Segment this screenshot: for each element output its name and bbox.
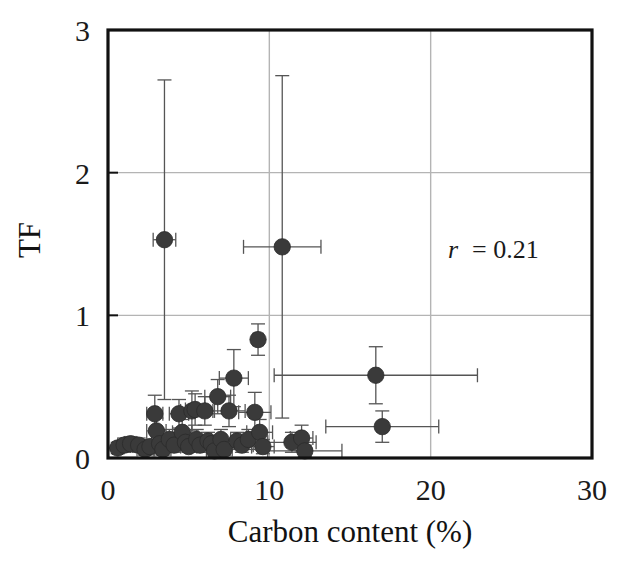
data-point bbox=[255, 438, 271, 454]
data-point bbox=[156, 232, 172, 248]
correlation-symbol: r bbox=[448, 235, 459, 264]
data-point bbox=[250, 331, 266, 347]
correlation-value: = 0.21 bbox=[472, 235, 539, 264]
y-tick-label: 3 bbox=[75, 14, 90, 47]
data-point bbox=[368, 367, 384, 383]
x-tick-label: 20 bbox=[416, 473, 446, 506]
x-tick-label: 30 bbox=[577, 473, 607, 506]
x-axis-title: Carbon content (%) bbox=[228, 514, 472, 549]
scatter-plot-figure: 01020300123 Carbon content (%) TF r = 0.… bbox=[0, 0, 627, 566]
chart-background bbox=[0, 0, 627, 566]
y-tick-label: 0 bbox=[75, 442, 90, 475]
chart-canvas: 01020300123 Carbon content (%) TF r = 0.… bbox=[0, 0, 627, 566]
data-point bbox=[147, 406, 163, 422]
data-point bbox=[210, 388, 226, 404]
data-point bbox=[226, 370, 242, 386]
data-point bbox=[221, 403, 237, 419]
x-tick-label: 10 bbox=[254, 473, 284, 506]
x-tick-label: 0 bbox=[101, 473, 116, 506]
data-point bbox=[247, 404, 263, 420]
y-tick-label: 1 bbox=[75, 299, 90, 332]
data-point bbox=[251, 424, 267, 440]
data-point bbox=[374, 418, 390, 434]
y-tick-label: 2 bbox=[75, 157, 90, 190]
data-point bbox=[274, 239, 290, 255]
y-axis-title: TF bbox=[12, 222, 47, 258]
data-point bbox=[197, 403, 213, 419]
